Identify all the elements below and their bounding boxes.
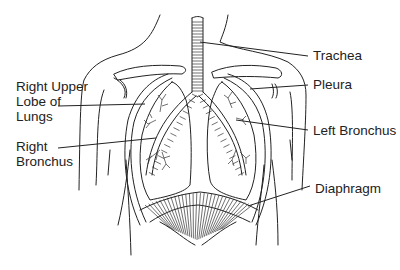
drawing-stroke	[155, 161, 161, 164]
left-lung	[207, 82, 256, 200]
drawing-stroke	[174, 128, 180, 131]
label-right-upper-lobe-line2: Lobe of	[16, 94, 61, 109]
drawing-stroke	[189, 193, 191, 237]
leader-pleura	[250, 85, 308, 89]
label-right-bronchus-line1: Right	[16, 139, 48, 154]
drawing-stroke	[180, 116, 186, 119]
drawing-stroke	[186, 194, 190, 237]
label-left-bronchus: Left Bronchus	[313, 123, 397, 138]
leader-diaphragm	[248, 186, 310, 206]
diaphragm	[140, 192, 258, 245]
leader-trachea	[200, 42, 308, 56]
drawing-stroke	[235, 167, 241, 170]
drawing-stroke	[206, 195, 219, 236]
lungs-diagram: Right Upper Lobe of Lungs Right Bronchus…	[0, 0, 400, 270]
label-right-bronchus-line2: Bronchus	[16, 154, 73, 169]
drawing-stroke	[221, 139, 227, 142]
label-diaphragm: Diaphragm	[315, 181, 381, 196]
drawing-stroke	[186, 105, 192, 108]
drawing-stroke	[223, 144, 229, 147]
label-right-upper-lobe-line3: Lungs	[16, 109, 53, 124]
drawing-stroke	[212, 122, 218, 125]
label-right-upper-lobe-line1: Right Upper	[16, 79, 89, 94]
drawing-stroke	[203, 105, 209, 108]
trachea	[192, 17, 203, 93]
drawing-stroke	[219, 202, 245, 230]
drawing-stroke	[218, 133, 224, 136]
drawing-stroke	[197, 193, 201, 240]
labels: Right Upper Lobe of Lungs Right Bronchus…	[16, 48, 397, 196]
drawing-stroke	[226, 150, 232, 153]
leader-left-bronchus	[236, 120, 308, 130]
drawing-stroke	[209, 116, 215, 119]
drawing-stroke	[167, 139, 173, 142]
drawing-stroke	[183, 111, 189, 114]
drawing-stroke	[238, 172, 244, 175]
drawing-stroke	[215, 128, 221, 131]
drawing-stroke	[170, 133, 176, 136]
drawing-stroke	[229, 156, 235, 159]
drawing-stroke	[164, 144, 170, 147]
drawing-stroke	[156, 201, 175, 230]
leader-right-upper-lobe	[58, 104, 145, 106]
drawing-stroke	[177, 122, 183, 125]
drawing-stroke	[222, 205, 252, 229]
drawing-stroke	[195, 193, 197, 239]
label-trachea: Trachea	[313, 48, 363, 63]
label-pleura: Pleura	[313, 77, 353, 92]
